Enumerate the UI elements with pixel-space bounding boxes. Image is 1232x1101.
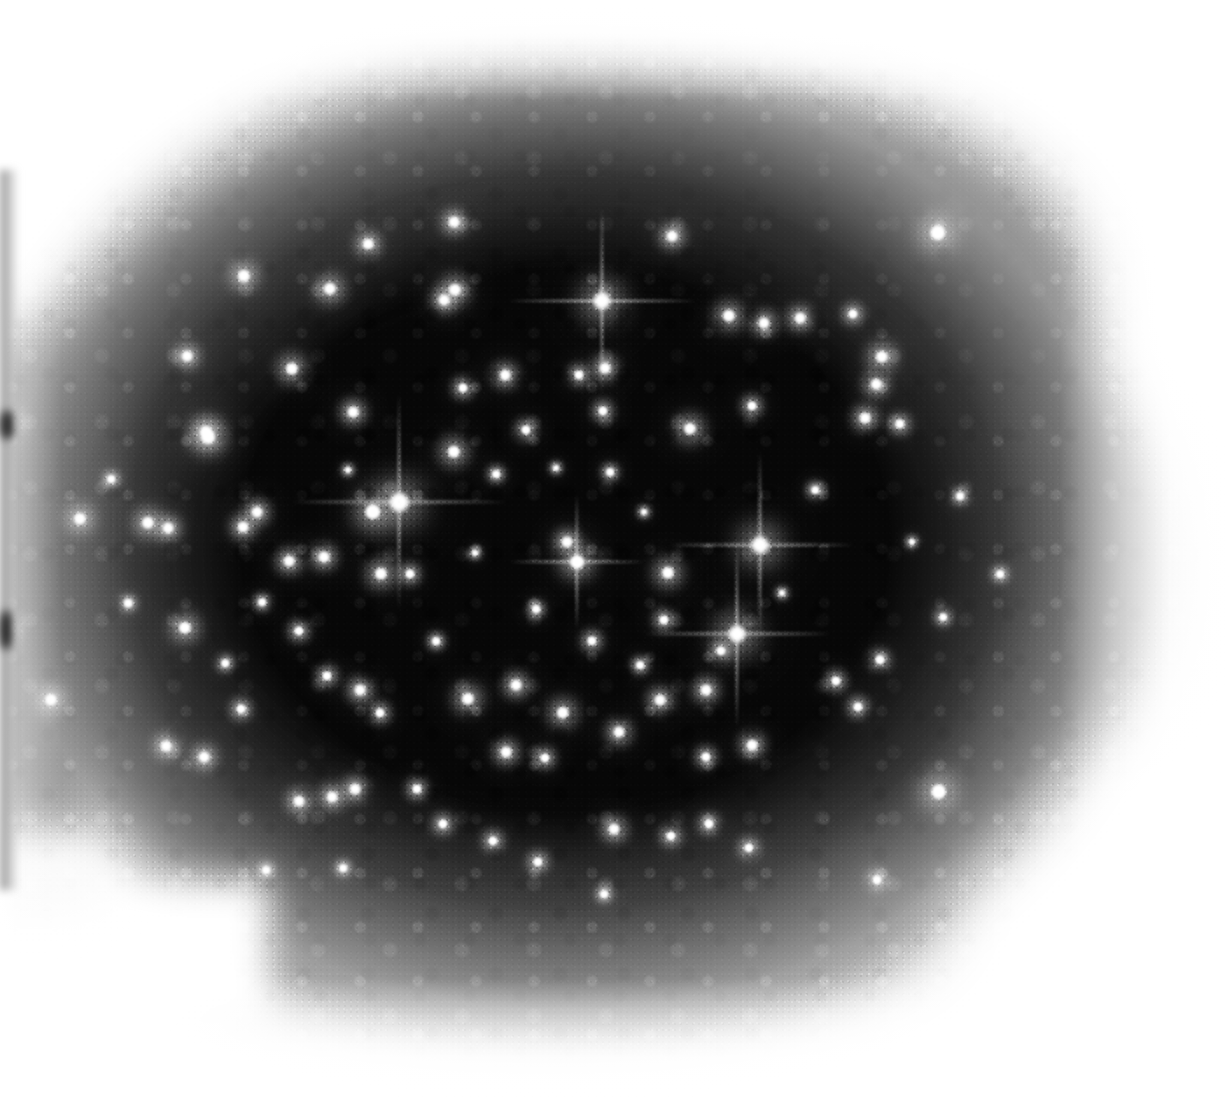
edge-artifact-lower <box>0 610 12 650</box>
plate-scan-image: Photographic plate star field open star … <box>0 0 1232 1101</box>
exposed-emulsion-field <box>0 0 1232 1101</box>
scan-edge-band <box>0 170 18 890</box>
emulsion-blob-core <box>140 230 1000 870</box>
edge-artifact-upper <box>0 410 14 440</box>
